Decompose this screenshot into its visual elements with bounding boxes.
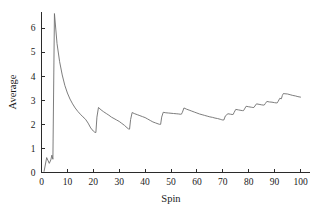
y-tick-label: 4 bbox=[31, 72, 36, 82]
y-tick-label: 6 bbox=[31, 23, 36, 33]
line-chart: 0102030405060708090100 0123456 Spin Aver… bbox=[0, 0, 323, 215]
x-tick-label: 80 bbox=[244, 177, 254, 187]
x-tick-label: 70 bbox=[218, 177, 228, 187]
data-series bbox=[44, 14, 300, 172]
chart-container: 0102030405060708090100 0123456 Spin Aver… bbox=[0, 0, 323, 215]
x-axis-title: Spin bbox=[161, 193, 181, 204]
y-tick-label: 3 bbox=[31, 96, 36, 106]
y-tick-label: 1 bbox=[31, 144, 36, 154]
y-tick-label: 5 bbox=[31, 47, 36, 57]
y-tick-label: 2 bbox=[31, 120, 36, 130]
x-tick-label: 60 bbox=[192, 177, 202, 187]
x-tick-label: 30 bbox=[114, 177, 124, 187]
series-line bbox=[44, 14, 300, 172]
y-axis-title: Average bbox=[7, 74, 18, 109]
x-tick-label: 100 bbox=[293, 177, 308, 187]
tick-marks bbox=[42, 28, 301, 173]
x-tick-label: 10 bbox=[63, 177, 73, 187]
axes bbox=[42, 12, 310, 173]
y-tick-label: 0 bbox=[31, 168, 36, 178]
y-tick-labels: 0123456 bbox=[31, 23, 36, 178]
x-tick-label: 0 bbox=[39, 177, 44, 187]
x-tick-label: 20 bbox=[89, 177, 99, 187]
x-tick-labels: 0102030405060708090100 bbox=[39, 177, 308, 187]
x-tick-label: 40 bbox=[140, 177, 150, 187]
x-tick-label: 90 bbox=[270, 177, 280, 187]
x-tick-label: 50 bbox=[166, 177, 176, 187]
